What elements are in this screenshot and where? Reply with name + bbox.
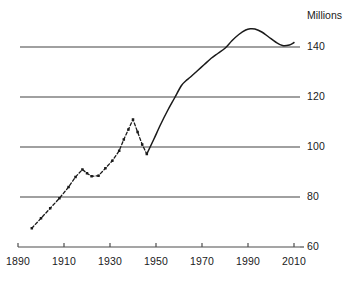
x-axis-tick-label-1990: 1990 [233, 255, 263, 267]
y-axis-tick-label-100: 100 [307, 140, 325, 152]
x-axis-tick-label-1930: 1930 [95, 255, 125, 267]
x-axis-tick-label-1890: 1890 [3, 255, 33, 267]
x-axis-tick-label-1910: 1910 [49, 255, 79, 267]
y-axis-unit-label: Millions [307, 9, 342, 21]
x-axis-tick-label-1950: 1950 [141, 255, 171, 267]
data-series [32, 29, 294, 229]
y-axis-tick-label-80: 80 [307, 190, 319, 202]
gridlines [20, 47, 300, 197]
x-axis-tick-label-2010: 2010 [279, 255, 309, 267]
x-axis-tick-label-1970: 1970 [187, 255, 217, 267]
y-axis-tick-label-140: 140 [307, 40, 325, 52]
population-line-chart: Millions 6080100120140 18901910193019501… [0, 0, 348, 281]
chart-plot-area [0, 0, 348, 281]
y-axis-tick-label-60: 60 [307, 240, 319, 252]
data-point-markers [31, 118, 149, 229]
y-axis-tick-label-120: 120 [307, 90, 325, 102]
